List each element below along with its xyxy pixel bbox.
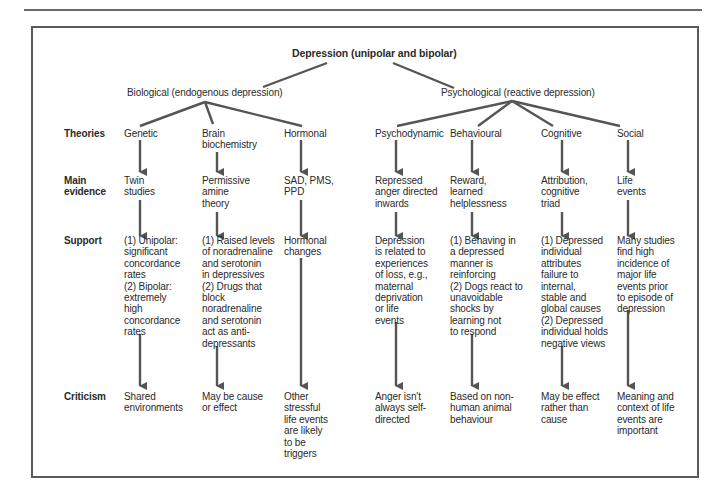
criticism-genetic: Shared environments <box>124 391 183 414</box>
evidence-psychodynamic: Repressed anger directed inwards <box>375 175 438 209</box>
row-label-support: Support <box>64 235 102 246</box>
criticism-behavioural: Based on non- human animal behaviour <box>450 391 514 425</box>
criticism-psychodynamic: Anger isn't always self- directed <box>375 391 426 425</box>
support-hormonal: Hormonal changes <box>284 235 327 258</box>
support-psychodynamic: Depression is related to experiences of … <box>375 235 428 326</box>
theory-hormonal: Hormonal <box>284 128 327 139</box>
connector-lines <box>0 0 724 503</box>
criticism-cognitive: May be effect rather than cause <box>541 391 600 425</box>
theory-behavioural: Behavioural <box>450 128 502 139</box>
support-social: Many studies find high incidence of majo… <box>617 235 675 315</box>
support-cognitive: (1) Depressed individual attributes fail… <box>541 235 608 349</box>
support-genetic: (1) Unipolar: significant concordance ra… <box>124 235 180 338</box>
criticism-hormonal: Other stressful life events are likely t… <box>284 391 328 459</box>
support-behavioural: (1) Behaving in a depressed manner is re… <box>450 235 523 338</box>
branch-biological: Biological (endogenous depression) <box>127 87 283 98</box>
criticism-social: Meaning and context of life events are i… <box>617 391 674 437</box>
theory-social: Social <box>617 128 644 139</box>
evidence-social: Life events <box>617 175 646 198</box>
diagram-title: Depression (unipolar and bipolar) <box>292 48 457 59</box>
theory-genetic: Genetic <box>124 128 158 139</box>
row-label-criticism: Criticism <box>64 391 106 402</box>
theory-brain-biochemistry: Brain biochemistry <box>202 128 257 151</box>
evidence-behavioural: Reward, learned helplessness <box>450 175 507 209</box>
row-label-theories: Theories <box>64 128 105 139</box>
branch-psychological: Psychological (reactive depression) <box>441 87 595 98</box>
theory-cognitive: Cognitive <box>541 128 582 139</box>
criticism-brain-biochemistry: May be cause or effect <box>202 391 263 414</box>
evidence-cognitive: Attribution, cognitive triad <box>541 175 588 209</box>
row-label-main-evidence: Main evidence <box>64 175 106 198</box>
support-brain-biochemistry: (1) Raised levels of noradrenaline and s… <box>202 235 275 349</box>
theory-psychodynamic: Psychodynamic <box>375 128 444 139</box>
evidence-brain-biochemistry: Permissive amine theory <box>202 175 250 209</box>
evidence-genetic: Twin studies <box>124 175 155 198</box>
evidence-hormonal: SAD, PMS, PPD <box>284 175 334 198</box>
